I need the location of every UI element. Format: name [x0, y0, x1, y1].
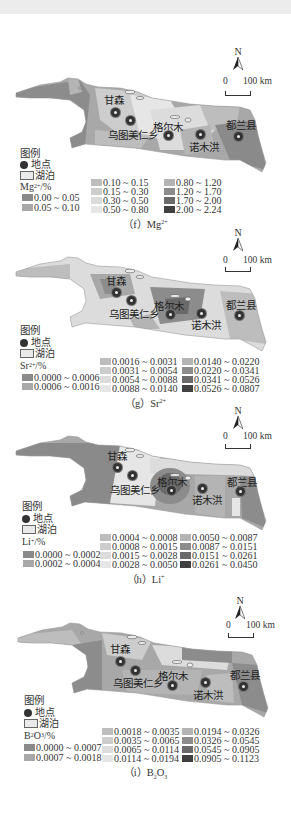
scale-bar	[228, 633, 254, 638]
legend-class-6: 0.0028 ~ 0.0050	[100, 559, 177, 570]
site-dulan-icon	[234, 132, 243, 141]
site-wutumeiren-icon	[128, 471, 137, 480]
north-arrow-icon	[233, 57, 243, 71]
swatch	[24, 744, 35, 751]
place-nuomuhong: 诺木洪	[189, 139, 219, 154]
site-nuomuhong-icon	[201, 678, 210, 687]
legend-unit: Sr2+/%	[20, 360, 46, 371]
swatch	[164, 179, 175, 186]
place-gansen: 甘森	[104, 92, 124, 107]
site-gansen-icon	[111, 108, 120, 117]
panel-f-mg: N 0 100 km 甘森 乌图美仁乡 格尔木 诺木洪 都兰县 图例 地点 湖泊…	[0, 0, 291, 205]
scale-zero-label: 0	[223, 76, 228, 86]
swatch	[23, 560, 34, 567]
swatch	[102, 728, 113, 735]
site-golmud-icon	[168, 681, 177, 690]
north-arrow: N	[231, 406, 245, 432]
swatch	[102, 737, 113, 744]
north-arrow-icon	[235, 606, 245, 620]
site-wutumeiren-icon	[127, 296, 136, 305]
place-wutumeiren: 乌图美仁乡	[109, 306, 159, 321]
scale-bar	[225, 444, 251, 449]
legend-class-2: 0.0006 ~ 0.0016	[22, 381, 99, 392]
legend-site: 地点	[24, 707, 55, 718]
scale-label: 100 km	[243, 431, 272, 441]
site-wutumeiren-icon	[126, 116, 135, 125]
site-gansen-icon	[116, 657, 125, 666]
legend-lake: 湖泊	[20, 170, 55, 181]
site-icon	[24, 709, 32, 717]
site-dulan-icon	[239, 682, 248, 691]
swatch	[91, 179, 102, 186]
legend-site: 地点	[22, 513, 53, 524]
scale-zero-label: 0	[226, 620, 231, 630]
legend-unit: Li+/%	[22, 536, 45, 547]
caption-i: （i）B2O3	[0, 764, 291, 780]
scale-bar	[225, 267, 251, 272]
legend-lake: 湖泊	[22, 524, 57, 535]
place-gansen: 甘森	[107, 448, 127, 463]
swatch	[182, 385, 193, 392]
swatch	[100, 534, 111, 541]
swatch	[22, 383, 33, 390]
legend-unit: B2O3/%	[24, 730, 55, 741]
site-icon	[22, 515, 30, 523]
site-icon	[20, 339, 28, 347]
swatch	[182, 728, 193, 735]
legend-heading: 图例	[20, 148, 40, 159]
lake-icon	[24, 719, 38, 728]
swatch	[182, 358, 193, 365]
legend-class-6: 0.0114 ~ 0.0194	[102, 753, 179, 764]
north-arrow: N	[231, 47, 245, 73]
legend-class-2: 0.0007 ~ 0.0018	[24, 752, 101, 763]
swatch	[100, 376, 111, 383]
site-dulan-icon	[235, 311, 244, 320]
site-gansen-icon	[112, 288, 121, 297]
swatch	[24, 754, 35, 761]
legend-class-10: 0.0526 ~ 0.0807	[182, 383, 259, 394]
place-gansen: 甘森	[106, 273, 126, 288]
swatch	[100, 561, 111, 568]
swatch	[100, 367, 111, 374]
swatch	[102, 755, 113, 762]
swatch	[164, 188, 175, 195]
place-nuomuhong: 诺木洪	[193, 687, 223, 702]
north-arrow: N	[231, 228, 245, 254]
scale-label: 100 km	[246, 620, 275, 630]
place-dulan: 都兰县	[226, 297, 256, 312]
swatch	[91, 188, 102, 195]
legend-unit: Mg2+/%	[20, 181, 51, 192]
scale-label: 100 km	[243, 255, 272, 265]
swatch	[100, 543, 111, 550]
swatch	[100, 358, 111, 365]
swatch	[22, 374, 33, 381]
legend-class-10: 0.0905 ~ 0.1123	[182, 753, 259, 764]
swatch	[100, 552, 111, 559]
legend-lake: 湖泊	[20, 348, 55, 359]
legend-site: 地点	[20, 159, 51, 170]
place-wutumeiren: 乌图美仁乡	[113, 675, 163, 690]
legend-class-10: 0.0261 ~ 0.0450	[180, 559, 257, 570]
site-golmud-icon	[167, 486, 176, 495]
legend-heading: 图例	[20, 325, 40, 336]
scale-zero-label: 0	[223, 255, 228, 265]
scale-zero-label: 0	[223, 431, 228, 441]
site-icon	[20, 161, 28, 169]
lake-icon	[20, 171, 34, 180]
north-arrow-icon	[233, 238, 243, 252]
swatch	[180, 534, 191, 541]
place-dulan: 都兰县	[230, 667, 260, 682]
swatch	[102, 746, 113, 753]
legend-site: 地点	[20, 337, 51, 348]
swatch	[182, 376, 193, 383]
panel-g-sr: N 0 100 km 甘森 乌图美仁乡 格尔木 诺木洪 都兰县 图例 地点 湖泊…	[0, 200, 291, 405]
caption-h: （h）Li+	[0, 571, 291, 586]
legend-heading: 图例	[24, 695, 44, 706]
legend-heading: 图例	[22, 501, 42, 512]
lake-icon	[20, 349, 34, 358]
north-arrow-icon	[233, 416, 243, 430]
site-golmud-icon	[164, 131, 173, 140]
swatch	[180, 543, 191, 550]
caption-g: （g）Sr2+	[0, 395, 291, 410]
site-gansen-icon	[113, 463, 122, 472]
